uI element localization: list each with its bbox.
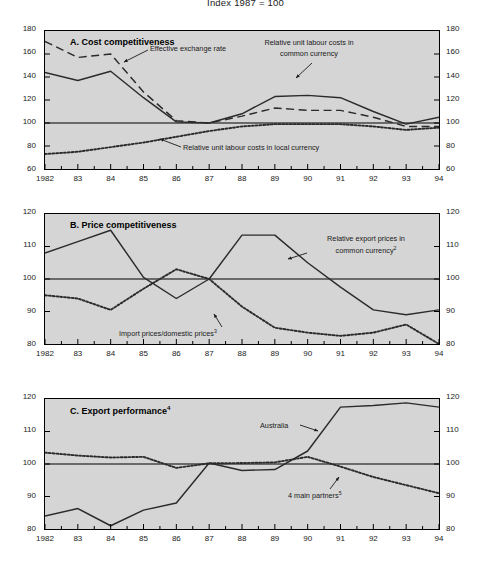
xtick-label: 84 — [106, 349, 115, 358]
ytick-label-right: 110 — [446, 240, 470, 249]
panel-c-svg — [45, 399, 439, 529]
ytick-label-left: 120 — [12, 392, 36, 401]
ytick-label-left: 90 — [12, 306, 36, 315]
annotation-superscript: 3 — [214, 328, 217, 334]
ytick-label-left: 100 — [12, 117, 36, 126]
figure-title: Index 1987 = 100 — [0, 0, 491, 8]
panel-c-title: C. Export performance4 — [70, 405, 170, 416]
xtick-label: 91 — [336, 174, 345, 183]
xtick-label: 89 — [270, 349, 279, 358]
ytick-label-left: 110 — [12, 425, 36, 434]
annotation-line-1: Relative unit labour costs in — [264, 38, 353, 47]
ytick-label-right: 90 — [446, 491, 470, 500]
xtick-label: 85 — [139, 174, 148, 183]
xtick-label: 87 — [205, 349, 214, 358]
ytick-label-left: 80 — [12, 141, 36, 150]
annotation-superscript: 2 — [394, 245, 397, 251]
xtick-label: 94 — [435, 534, 444, 543]
ytick-label-left: 100 — [12, 273, 36, 282]
xtick-label: 90 — [303, 174, 312, 183]
ytick-label-right: 160 — [446, 47, 470, 56]
ytick-label-right: 100 — [446, 458, 470, 467]
ytick-label-left: 120 — [12, 207, 36, 216]
xtick-label: 91 — [336, 349, 345, 358]
xtick-label: 86 — [172, 174, 181, 183]
xtick-label: 1982 — [36, 349, 54, 358]
ytick-label-left: 120 — [12, 94, 36, 103]
xtick-label: 93 — [402, 349, 411, 358]
xtick-label: 85 — [139, 534, 148, 543]
annotation-line-2: common currency — [280, 49, 338, 58]
ytick-label-right: 110 — [446, 425, 470, 434]
annotation-label: Australia — [260, 421, 288, 432]
ytick-label-left: 80 — [12, 524, 36, 533]
xtick-label: 90 — [303, 349, 312, 358]
annotation-line-1: Relative export prices in — [327, 234, 405, 243]
xtick-label: 86 — [172, 534, 181, 543]
annotation-label: Relative export prices incommon currency… — [307, 234, 425, 257]
ytick-label-left: 60 — [12, 164, 36, 173]
annotation-superscript: 5 — [339, 490, 342, 496]
xtick-label: 85 — [139, 349, 148, 358]
xtick-label: 89 — [270, 174, 279, 183]
xtick-label: 88 — [238, 174, 247, 183]
xtick-label: 94 — [435, 174, 444, 183]
annotation-line-1: 4 main partners — [288, 491, 339, 500]
series-line-1 — [45, 453, 439, 494]
figure-container: Index 1987 = 100 A. Cost competitiveness… — [0, 0, 491, 577]
ytick-label-right: 90 — [446, 306, 470, 315]
ytick-label-right: 80 — [446, 141, 470, 150]
xtick-label: 86 — [172, 349, 181, 358]
ytick-label-right: 80 — [446, 339, 470, 348]
xtick-label: 84 — [106, 174, 115, 183]
annotation-line-1: Import prices/domestic prices — [119, 329, 214, 338]
ytick-label-right: 120 — [446, 207, 470, 216]
xtick-label: 91 — [336, 534, 345, 543]
ytick-label-right: 120 — [446, 94, 470, 103]
ytick-label-right: 80 — [446, 524, 470, 533]
ytick-label-left: 160 — [12, 47, 36, 56]
panel-b-plot-area — [44, 213, 440, 345]
xtick-label: 94 — [435, 349, 444, 358]
annotation-label: 4 main partners5 — [288, 490, 342, 502]
xtick-label: 89 — [270, 534, 279, 543]
xtick-label: 1982 — [36, 534, 54, 543]
xtick-label: 83 — [73, 349, 82, 358]
annotation-line-2: common currency — [336, 246, 394, 255]
annotation-line-1: Australia — [260, 421, 288, 430]
xtick-label: 1982 — [36, 174, 54, 183]
ytick-label-right: 100 — [446, 273, 470, 282]
annotation-label: Relative unit labour costs in local curr… — [183, 143, 319, 154]
xtick-label: 93 — [402, 174, 411, 183]
panel-title-superscript: 4 — [167, 405, 170, 411]
panel-c-plot-area — [44, 398, 440, 530]
panel-b-title: B. Price competitiveness — [70, 220, 177, 230]
xtick-label: 93 — [402, 534, 411, 543]
xtick-label: 87 — [205, 174, 214, 183]
xtick-label: 88 — [238, 534, 247, 543]
annotation-label: Relative unit labour costs incommon curr… — [251, 38, 367, 59]
ytick-label-right: 100 — [446, 117, 470, 126]
ytick-label-left: 100 — [12, 458, 36, 467]
annotation-label: Import prices/domestic prices3 — [119, 328, 217, 340]
xtick-label: 92 — [369, 534, 378, 543]
xtick-label: 83 — [73, 174, 82, 183]
annotation-line-1: Relative unit labour costs in local curr… — [183, 143, 319, 152]
ytick-label-left: 140 — [12, 71, 36, 80]
series-line-1 — [45, 269, 439, 344]
xtick-label: 83 — [73, 534, 82, 543]
ytick-label-left: 110 — [12, 240, 36, 249]
xtick-label: 88 — [238, 349, 247, 358]
xtick-label: 87 — [205, 534, 214, 543]
xtick-label: 92 — [369, 174, 378, 183]
xtick-label: 84 — [106, 534, 115, 543]
ytick-label-right: 60 — [446, 164, 470, 173]
ytick-label-left: 80 — [12, 339, 36, 348]
xtick-label: 90 — [303, 534, 312, 543]
ytick-label-right: 140 — [446, 71, 470, 80]
xtick-label: 92 — [369, 349, 378, 358]
annotation-line-1: Effective exchange rate — [150, 44, 226, 53]
annotation-label: Effective exchange rate — [150, 44, 226, 55]
ytick-label-left: 180 — [12, 24, 36, 33]
ytick-label-left: 90 — [12, 491, 36, 500]
